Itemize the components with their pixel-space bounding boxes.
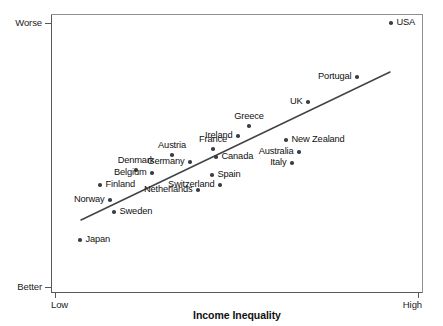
data-point-new-zealand [284,138,288,142]
data-point-japan [78,238,82,242]
data-point-netherlands [196,188,200,192]
plot-top-border [51,14,423,15]
data-label-new-zealand: New Zealand [292,135,345,144]
y-tick-label-worse: Worse [0,17,42,28]
data-label-finland: Finland [106,180,135,189]
plot-right-border [422,14,423,293]
data-point-portugal [355,75,359,79]
scatter-plot-figure: WorseBetter LowHigh USAPortugalUKGreeceI… [0,0,443,326]
data-point-ireland [236,134,240,138]
data-label-sweden: Sweden [120,207,153,216]
data-label-denmark: Denmark [118,155,155,164]
data-point-spain [210,173,214,177]
data-label-usa: USA [397,18,416,27]
data-point-sweden [112,210,116,214]
data-label-portugal: Portugal [318,72,351,81]
data-label-australia: Australia [259,147,294,156]
data-point-germany [188,160,192,164]
y-tick-label-better: Better [0,281,42,292]
data-point-australia [297,150,301,154]
data-point-switzerland [218,183,222,187]
y-tick-worse [45,23,51,24]
data-label-spain: Spain [218,170,241,179]
data-label-italy: Italy [270,158,286,167]
data-label-japan: Japan [86,235,111,244]
data-point-france [211,147,215,151]
data-point-italy [290,161,294,165]
data-point-norway [108,198,112,202]
data-point-canada [214,155,218,159]
data-label-uk: UK [290,97,303,106]
x-axis-title: Income Inequality [51,309,423,321]
data-label-canada: Canada [222,152,254,161]
data-label-france: France [199,134,227,143]
data-label-netherlands: Netherlands [144,185,192,194]
y-tick-better [45,287,51,288]
data-label-austria: Austria [158,140,186,149]
x-tick-low [55,293,56,298]
data-point-finland [98,183,102,187]
data-point-belgium [150,171,154,175]
data-point-uk [306,100,310,104]
data-point-usa [389,21,393,25]
data-label-belgium: Belgium [114,168,147,177]
x-tick-high [418,293,419,298]
data-label-norway: Norway [74,195,105,204]
data-point-greece [247,124,251,128]
data-label-greece: Greece [234,111,264,120]
